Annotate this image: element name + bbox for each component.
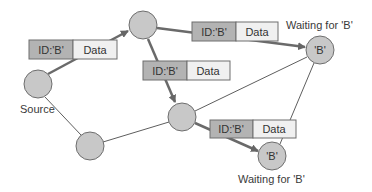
bottom-left-node bbox=[76, 132, 104, 160]
source-label: Source bbox=[20, 103, 55, 115]
packet-1: ID:'B' Data bbox=[29, 40, 117, 59]
packet-2: ID:'B' Data bbox=[192, 22, 278, 41]
edge-bottomleft-middle bbox=[103, 122, 169, 142]
packet-id-label: ID:'B' bbox=[218, 123, 244, 135]
nodes: 'B' 'B' bbox=[24, 11, 334, 170]
packet-id-label: ID:'B' bbox=[38, 44, 64, 56]
top-node bbox=[129, 11, 157, 39]
packet-4: ID:'B' Data bbox=[210, 120, 296, 138]
multicast-diagram: 'B' 'B' ID:'B' Data ID:'B' Data ID:'B' D… bbox=[0, 0, 372, 192]
packet-id-label: ID:'B' bbox=[152, 65, 178, 77]
bottom-receiver-label: 'B' bbox=[266, 150, 278, 162]
packet-3: ID:'B' Data bbox=[143, 61, 230, 80]
packet-data-label: Data bbox=[196, 65, 220, 77]
waiting-bottom-label: Waiting for 'B' bbox=[238, 173, 305, 185]
waiting-right-label: Waiting for 'B' bbox=[286, 19, 353, 31]
right-receiver-label: 'B' bbox=[314, 44, 326, 56]
packet-data-label: Data bbox=[245, 26, 269, 38]
packet-data-label: Data bbox=[262, 123, 286, 135]
packet-data-label: Data bbox=[83, 44, 107, 56]
source-node bbox=[24, 70, 52, 98]
middle-node bbox=[168, 103, 196, 131]
packet-id-label: ID:'B' bbox=[201, 26, 227, 38]
